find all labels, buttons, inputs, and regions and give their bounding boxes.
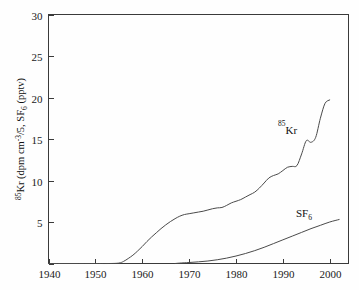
- y-tick-label-10: 10: [32, 176, 44, 188]
- x-tick-label-1990: 1990: [273, 268, 296, 280]
- y-axis-tick-labels: 51015202530: [32, 10, 44, 229]
- y-tick-label-5: 5: [37, 217, 43, 229]
- y-tick-label-15: 15: [32, 134, 44, 146]
- plot-frame: [49, 15, 349, 264]
- x-tick-label-1970: 1970: [179, 268, 202, 280]
- series-label-sf6: SF6: [296, 207, 312, 222]
- x-tick-label-1940: 1940: [39, 268, 62, 280]
- chart-canvas: 51015202530 1940195019601970198019902000…: [0, 0, 359, 290]
- y-tick-label-25: 25: [32, 51, 44, 63]
- y-axis-ticks: [49, 16, 54, 265]
- series-label-kr85: 85Kr: [278, 119, 297, 137]
- x-axis-tick-labels: 1940195019601970198019902000: [39, 268, 343, 280]
- chart-figure: 51015202530 1940195019601970198019902000…: [0, 0, 359, 290]
- y-tick-label-20: 20: [32, 93, 44, 105]
- y-axis-title: 85Kr (dpm cm-3/5, SF6 (pptv): [14, 77, 29, 200]
- axis-box: [49, 15, 349, 264]
- y-tick-label-30: 30: [32, 10, 44, 22]
- x-tick-label-1960: 1960: [132, 268, 155, 280]
- x-tick-label-1980: 1980: [226, 268, 249, 280]
- x-tick-label-1950: 1950: [85, 268, 108, 280]
- series-line-sf6: [175, 220, 339, 264]
- x-tick-label-2000: 2000: [320, 268, 343, 280]
